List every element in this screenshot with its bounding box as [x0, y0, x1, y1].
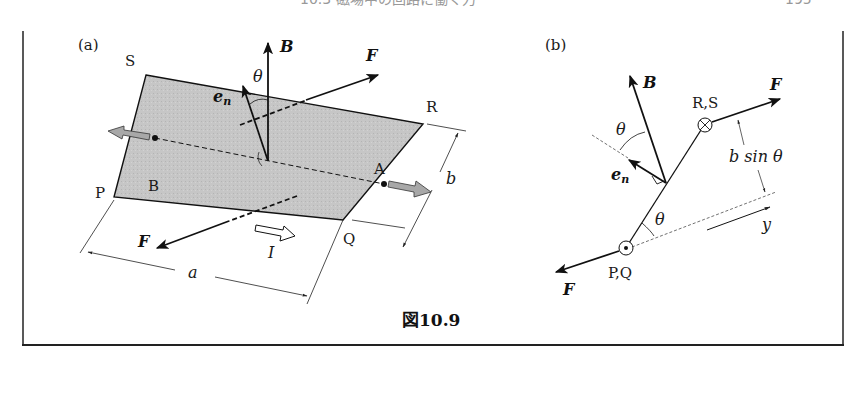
out-of-page-dot-icon	[619, 241, 633, 255]
dim-a-label: a	[188, 263, 198, 282]
field-B-label: B	[279, 37, 294, 56]
force-top-label: F	[365, 46, 379, 65]
y-direction-arrow	[707, 207, 770, 230]
corner-S: S	[125, 52, 135, 70]
theta-label-bottom: θ	[655, 210, 665, 229]
normal-en-label-b: en	[611, 165, 629, 186]
corner-Q: Q	[343, 230, 355, 248]
theta-label-top: θ	[616, 120, 626, 139]
lever-arm-arrow-down	[758, 170, 765, 192]
corner-P: P	[95, 184, 105, 202]
figure-caption: 図10.9	[402, 310, 460, 330]
panel-a: (a) a b S R P Q B A	[78, 36, 466, 304]
lever-arm-arrow-up	[738, 120, 744, 145]
corner-R: R	[426, 98, 438, 116]
lever-arm-label: b sin θ	[729, 147, 783, 166]
theta-arc-bottom	[642, 223, 654, 236]
field-B-arrow-b	[630, 76, 666, 183]
force-top-arrow-b	[712, 99, 780, 122]
header-text: 10.3 磁場中の回路に働く力	[300, 0, 476, 7]
force-top-arrow	[306, 75, 378, 100]
normal-en-arrow-b	[629, 160, 666, 183]
field-B-label-b: B	[642, 73, 657, 92]
end-RS-label: R,S	[692, 94, 718, 112]
panel-a-tag: (a)	[78, 36, 99, 54]
theta-label: θ	[253, 67, 263, 86]
page-number: 195	[785, 0, 812, 7]
page-header: 10.3 磁場中の回路に働く力 195	[300, 0, 812, 7]
y-reference-dashed	[632, 192, 776, 247]
y-axis-label: y	[761, 215, 772, 234]
into-page-cross-icon	[698, 118, 712, 132]
plate-edge	[629, 130, 701, 243]
panel-b: (b) B en θ θ R,S P,Q	[545, 36, 783, 299]
figure-10-9: 10.3 磁場中の回路に働く力 195 (a) a b S R P	[0, 0, 859, 406]
force-bottom-label-b: F	[562, 280, 576, 299]
dim-b-label: b	[446, 169, 456, 188]
force-bottom-arrow	[157, 221, 229, 248]
gray-arrow-right-icon	[388, 181, 431, 197]
force-top-label-b: F	[769, 75, 783, 94]
force-bottom-label: F	[137, 232, 151, 251]
panel-b-tag: (b)	[545, 36, 566, 54]
current-arrow-icon	[255, 225, 295, 241]
current-I-label: I	[267, 243, 275, 262]
point-B-label: B	[148, 177, 159, 195]
point-B-dot	[152, 135, 158, 141]
point-A-label: A	[373, 160, 385, 178]
end-PQ-label: P,Q	[608, 264, 632, 282]
point-A-dot	[381, 181, 387, 187]
